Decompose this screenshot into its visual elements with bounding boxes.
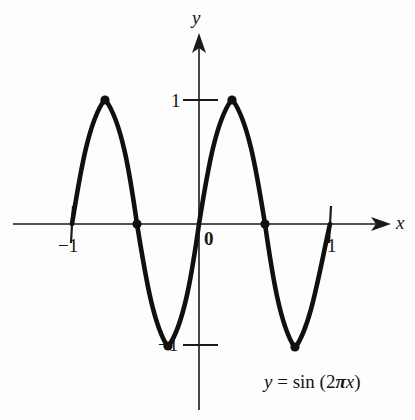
equation-lhs: y — [264, 371, 272, 392]
point-zero-right — [260, 219, 269, 228]
equation-variable: x — [346, 371, 354, 392]
equation-coefficient: 2 — [326, 371, 336, 392]
point-maximum-left — [100, 95, 109, 104]
origin-label: 0 — [204, 229, 214, 248]
y-tick-label-negative-one: −1 — [158, 335, 178, 354]
equation-close-paren: ) — [354, 371, 360, 392]
equation-function-name: sin — [293, 371, 315, 392]
x-tick-label-negative-one: −1 — [58, 236, 78, 255]
point-maximum-right — [227, 95, 236, 104]
y-tick-label-positive-one: 1 — [171, 91, 181, 110]
equation-equals: = — [277, 371, 288, 392]
point-zero-left — [132, 219, 141, 228]
x-axis-label: x — [396, 213, 404, 232]
equation-label: y = sin (2πx) — [264, 372, 361, 391]
x-tick-label-positive-one: 1 — [327, 236, 337, 255]
pi-symbol: π — [335, 371, 345, 392]
y-axis-label: y — [192, 8, 200, 27]
function-graph-figure: y x 1 −1 −1 1 0 y = sin (2πx) — [0, 0, 415, 420]
point-minimum-right — [290, 342, 299, 351]
graph-canvas — [0, 0, 415, 420]
